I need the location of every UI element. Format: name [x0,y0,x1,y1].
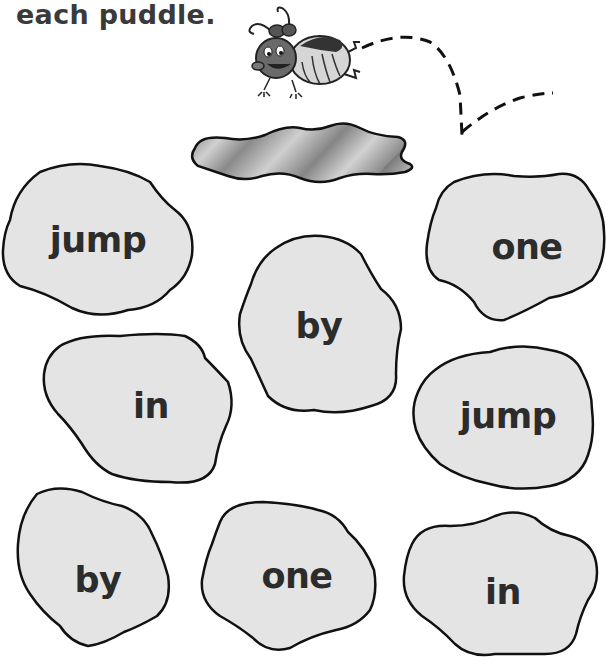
puddle-in-1[interactable]: in [40,326,234,486]
puddle-word: by [236,234,410,426]
puddle-word: in [40,326,248,498]
shaded-puddle [192,123,412,182]
puddle-word: by [12,484,196,666]
puddle-word: one [424,172,606,344]
puddle-one-1[interactable]: one [424,172,606,322]
dashed-jump-path [362,37,553,135]
puddle-word: jump [0,160,208,326]
puddle-word: one [198,498,388,666]
puddle-one-2[interactable]: one [198,498,380,654]
puddle-jump-1[interactable]: jump [0,160,196,320]
puddle-word: in [400,504,606,666]
puddle-by-2[interactable]: by [12,484,184,656]
puddle-by-1[interactable]: by [236,234,402,418]
ladybug-icon [249,8,360,100]
puddle-jump-2[interactable]: jump [410,340,606,492]
puddle-in-2[interactable]: in [400,504,606,660]
puddle-word: jump [410,340,606,498]
